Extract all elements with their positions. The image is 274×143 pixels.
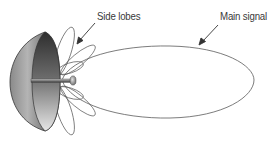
main-signal-arrow — [199, 25, 218, 45]
main-signal-label: Main signal — [220, 10, 267, 22]
antenna-diagram: Side lobes Main signal — [0, 0, 274, 143]
main-lobe — [62, 46, 254, 118]
side-lobes-label: Side lobes — [97, 10, 140, 22]
side-lobes-arrow — [77, 23, 95, 44]
